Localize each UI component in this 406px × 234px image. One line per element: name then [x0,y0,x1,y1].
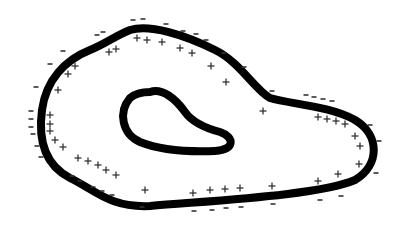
plus-sign [208,63,215,70]
plus-sign [260,108,267,115]
plus-sign [113,46,120,53]
contour-diagram [0,0,406,234]
plus-signs-group [47,35,364,197]
plus-sign [189,50,196,57]
plus-sign [134,35,141,42]
plus-sign [47,128,54,135]
plus-sign [47,112,54,119]
plus-sign [269,183,276,190]
plus-sign [95,162,102,169]
plus-sign [342,121,349,128]
plus-sign [85,158,92,165]
inner-hole-contour [123,91,231,151]
plus-sign [315,178,322,185]
plus-sign [60,144,67,151]
diagram-canvas [0,0,406,234]
plus-sign [352,133,359,140]
plus-sign [177,45,184,52]
plus-sign [142,187,149,194]
plus-sign [75,155,82,162]
plus-sign [52,137,59,144]
plus-sign [333,118,340,125]
plus-sign [113,172,120,179]
plus-sign [356,161,363,168]
plus-sign [207,187,214,194]
plus-sign [144,37,151,44]
plus-sign [357,143,364,150]
plus-sign [103,167,110,174]
plus-sign [324,116,331,123]
outer-contour [41,28,374,206]
plus-sign [106,49,113,56]
plus-sign [190,190,197,197]
plus-sign [315,114,322,121]
plus-sign [55,87,62,94]
plus-sign [159,39,166,46]
plus-sign [223,79,230,86]
plus-sign [65,71,72,78]
plus-sign [47,121,54,128]
plus-sign [237,185,244,192]
plus-sign [222,186,229,193]
plus-sign [335,171,342,178]
